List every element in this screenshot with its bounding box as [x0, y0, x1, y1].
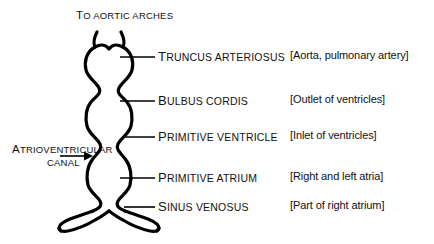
sinus-horn-left-tip [59, 228, 61, 231]
tube-left-edge [85, 47, 101, 211]
tube-right-edge [117, 47, 133, 211]
caption-to-aortic-arches: TTo aortic archesO AORTIC ARCHES [76, 10, 173, 22]
bracket-primitive-atrium: [Right and left atria] [290, 171, 383, 182]
heart-tube-outline [59, 32, 159, 231]
segment-label-primitive-atrium: PRIMITIVE ATRIUM [158, 171, 257, 184]
segment-label-sinus-venosus: SINUS VENOSUS [158, 200, 249, 213]
segment-label-truncus-arteriosus: TRUNCUS ARTERIOSUS [158, 50, 285, 63]
bracket-bulbus-cordis: [Outlet of ventricles] [290, 94, 385, 105]
aortic-fork-notch [95, 45, 123, 49]
heart-tube-diagram: TTo aortic archesO AORTIC ARCHES ATRIOVE… [0, 0, 434, 244]
segment-label-primitive-ventricle: PRIMITIVE VENTRICLE [158, 130, 278, 143]
bracket-sinus-venosus: [Part of right atrium] [290, 200, 384, 211]
segment-label-bulbus-cordis: BULBUS CORDIS [158, 94, 248, 107]
sinus-horn-right-tip [157, 228, 159, 231]
atrioventricular-canal-label-line2: CANAL [47, 158, 80, 168]
atrioventricular-canal-label-line1: ATRIOVENTRICULAR [12, 144, 113, 156]
sinus-horn-right [109, 211, 159, 231]
sinus-horn-left [59, 211, 109, 231]
bracket-truncus-arteriosus: [Aorta, pulmonary artery] [290, 50, 409, 61]
bracket-primitive-ventricle: [Inlet of ventricles] [290, 130, 377, 141]
